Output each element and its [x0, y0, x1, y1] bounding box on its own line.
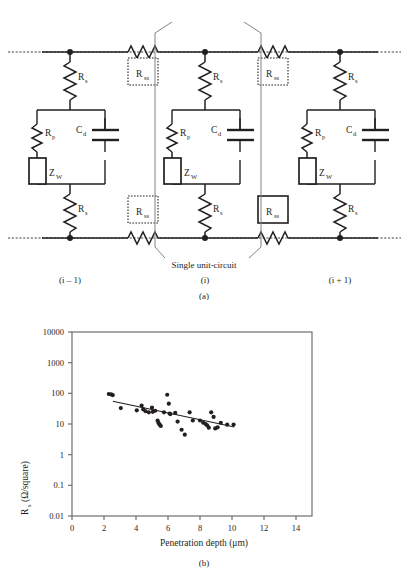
- data-point: [212, 415, 216, 419]
- zw-right-label: Z: [319, 168, 325, 178]
- panel-a-circuit-diagram: R ss R ss R ss R ss R s: [0, 0, 409, 300]
- y-axis-title-rest: (Ω/square): [20, 461, 31, 502]
- panel-b-scatter-chart: 0.010.1110100100010000 02468101214 R s (…: [0, 300, 409, 582]
- rs-top-center-label: R: [213, 72, 220, 82]
- y-tick-label: 1: [60, 450, 64, 460]
- panel-b-caption: (b): [199, 558, 210, 568]
- x-tick-label: 6: [166, 523, 170, 533]
- x-tick-label: 10: [228, 523, 237, 533]
- unit-right: R s R p Z W: [299, 49, 389, 241]
- zw-center-label: Z: [184, 168, 190, 178]
- data-point: [147, 410, 151, 414]
- zw-left-sub: W: [56, 173, 63, 180]
- parallel-branch-center: [172, 110, 240, 184]
- rp-center: [167, 124, 177, 158]
- rp-left-sub: p: [52, 133, 55, 140]
- rss-label-top-left: R: [136, 69, 143, 79]
- x-tick-label: 0: [70, 523, 74, 533]
- rs-bottom-left-sub: s: [85, 209, 88, 216]
- data-point: [159, 424, 163, 428]
- plot-frame: [72, 332, 312, 516]
- parallel-branch-right: [307, 110, 375, 184]
- y-axis-title: R s (Ω/square): [20, 461, 32, 515]
- rs-top-right-sub: s: [355, 77, 358, 84]
- cd-right-label: C: [346, 125, 352, 135]
- data-point: [167, 402, 171, 406]
- y-tick-label: 100: [51, 388, 64, 398]
- data-point: [209, 410, 213, 414]
- rp-right-label: R: [315, 128, 322, 138]
- cd-right-plates: [362, 130, 389, 140]
- x-tick-label: 14: [292, 523, 301, 533]
- zw-center-sub: W: [191, 173, 198, 180]
- rp-right: [302, 124, 312, 158]
- rs-top-left: [64, 52, 76, 110]
- y-axis-title-main: R: [20, 508, 30, 515]
- y-tick-label: 10: [56, 419, 65, 429]
- rs-bottom-center: [199, 184, 211, 238]
- plot-box: [72, 332, 312, 516]
- rail-solid-segments: [42, 52, 378, 238]
- cd-center-plates: [227, 130, 254, 140]
- panel-a-caption: (a): [199, 291, 209, 300]
- data-point: [111, 393, 115, 397]
- cd-left-sub: d: [83, 130, 87, 137]
- data-point: [135, 408, 139, 412]
- rss-box-top-left: [128, 58, 158, 85]
- zw-left-label: Z: [49, 168, 55, 178]
- data-point: [188, 410, 192, 414]
- y-axis-title-sub: s: [25, 504, 32, 507]
- unit-index-right: (i + 1): [329, 275, 352, 285]
- rs-bottom-right-label: R: [348, 204, 355, 214]
- zw-box-right: [299, 158, 316, 184]
- rs-bottom-center-sub: s: [220, 209, 223, 216]
- rs-bottom-center-label: R: [213, 204, 220, 214]
- data-point: [165, 393, 169, 397]
- rss-sub-bottom-right: ss: [274, 212, 280, 219]
- rp-right-sub: p: [322, 133, 325, 140]
- rss-label-bottom-left: R: [136, 207, 143, 217]
- cd-center-label: C: [211, 125, 217, 135]
- rs-bottom-left-label: R: [78, 204, 85, 214]
- rs-top-left-label: R: [78, 72, 85, 82]
- rs-top-left-sub: s: [85, 77, 88, 84]
- rss-sub-top-left: ss: [144, 74, 150, 81]
- rs-bottom-left: [64, 184, 76, 238]
- unit-index-center: (i): [201, 275, 210, 285]
- rss-sub-bottom-left: ss: [144, 212, 150, 219]
- data-point: [207, 426, 211, 430]
- rp-left-label: R: [45, 128, 52, 138]
- x-tick-label: 8: [198, 523, 202, 533]
- unit-left: R s R p Z W: [29, 49, 119, 241]
- x-axis: 02468101214: [70, 516, 301, 533]
- data-point: [180, 428, 184, 432]
- data-point: [216, 425, 220, 429]
- unit-center: R s R p Z W: [164, 49, 254, 241]
- rss-box-bottom-right: [258, 196, 288, 223]
- parallel-branch-left: [37, 110, 105, 184]
- rss-label-top-right: R: [266, 69, 273, 79]
- cd-left-plates: [92, 130, 119, 140]
- rs-top-center-sub: s: [220, 77, 223, 84]
- rss-sub-top-right: ss: [274, 74, 280, 81]
- unit-index-left: (i – 1): [59, 275, 81, 285]
- rss-box-bottom-left: [128, 196, 158, 223]
- rss-box-top-right: [258, 58, 288, 85]
- rp-left: [32, 124, 42, 158]
- x-tick-label: 12: [260, 523, 269, 533]
- data-point: [183, 433, 187, 437]
- zw-box-left: [29, 158, 46, 184]
- cd-left-label: C: [76, 125, 82, 135]
- data-point: [176, 419, 180, 423]
- cd-center-sub: d: [218, 130, 222, 137]
- rs-top-right-label: R: [348, 72, 355, 82]
- y-tick-label: 0.01: [49, 511, 64, 521]
- data-point: [119, 406, 123, 410]
- y-tick-label: 10000: [43, 327, 64, 337]
- rp-center-label: R: [180, 128, 187, 138]
- x-axis-title: Penetration depth (μm): [160, 538, 248, 549]
- single-unit-circuit-label: Single unit-circuit: [171, 260, 237, 270]
- x-tick-label: 4: [134, 523, 139, 533]
- rs-top-center: [199, 52, 211, 110]
- zw-right-sub: W: [326, 173, 333, 180]
